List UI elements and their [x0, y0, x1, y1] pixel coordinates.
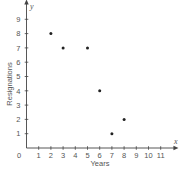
y-tick-label: 3	[16, 101, 20, 110]
tick-marks	[25, 19, 161, 150]
y-axis-variable: y	[29, 2, 34, 11]
y-tick-label: 5	[16, 72, 20, 81]
x-tick-label: 8	[122, 151, 126, 160]
x-tick-label: 7	[110, 151, 114, 160]
data-point	[62, 46, 65, 49]
y-axis-arrow-icon	[24, 0, 28, 4]
x-axis-variable: x	[173, 137, 178, 146]
x-tick-label: 10	[144, 151, 152, 160]
x-axis-title: Years	[91, 159, 110, 168]
x-axis-arrow-icon	[173, 146, 178, 150]
scatter-chart: 1234567891011123456789 Years Resignation…	[0, 0, 184, 170]
x-tick-label: 2	[49, 151, 53, 160]
x-tick-label: 3	[61, 151, 65, 160]
data-point	[123, 118, 126, 121]
y-tick-label: 9	[16, 15, 20, 24]
data-point	[98, 89, 101, 92]
tick-labels: 1234567891011123456789	[16, 15, 164, 160]
y-tick-label: 2	[16, 115, 20, 124]
x-tick-label: 11	[157, 151, 165, 160]
x-tick-label: 4	[73, 151, 77, 160]
origin-label: 0	[17, 151, 21, 160]
data-point	[110, 132, 113, 135]
y-axis-title: Resignations	[5, 62, 14, 106]
y-tick-label: 1	[16, 129, 20, 138]
y-tick-label: 4	[16, 87, 20, 96]
x-tick-label: 9	[134, 151, 138, 160]
y-tick-label: 7	[16, 44, 20, 53]
data-points	[49, 32, 125, 135]
data-point	[86, 46, 89, 49]
data-point	[49, 32, 52, 35]
axes	[24, 0, 178, 150]
x-tick-label: 5	[85, 151, 89, 160]
x-tick-label: 1	[37, 151, 41, 160]
y-tick-label: 6	[16, 58, 20, 67]
y-tick-label: 8	[16, 29, 20, 38]
